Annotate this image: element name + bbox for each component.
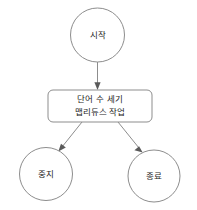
process-node-label-line2: 맵리듀스 작업 xyxy=(75,107,126,117)
arrowhead-down-icon xyxy=(94,82,100,90)
flowchart-diagram: 시작 단어 수 세기 맵리듀스 작업 중지 종료 xyxy=(0,0,197,210)
end-node[interactable]: 종료 xyxy=(128,150,180,202)
arrowhead-down-right-icon xyxy=(134,146,142,152)
arrowhead-down-left-icon xyxy=(58,144,66,152)
edge-process-to-end xyxy=(118,122,143,153)
end-node-label: 종료 xyxy=(146,171,162,181)
process-node[interactable]: 단어 수 세기 맵리듀스 작업 xyxy=(48,90,152,122)
edge-process-to-stop xyxy=(58,122,82,152)
start-node-label: 시작 xyxy=(90,30,106,40)
stop-node-label: 중지 xyxy=(38,169,54,179)
edge-start-to-process xyxy=(94,62,100,90)
process-node-label-line1: 단어 수 세기 xyxy=(77,94,122,104)
start-node[interactable]: 시작 xyxy=(71,8,125,62)
stop-node[interactable]: 중지 xyxy=(20,148,73,201)
